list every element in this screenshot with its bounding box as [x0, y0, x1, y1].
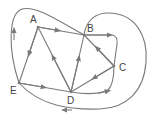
edge-a-e	[19, 27, 38, 83]
node-e-point	[18, 82, 21, 85]
node-label-e: E	[10, 85, 17, 96]
node-a-point	[37, 26, 40, 29]
node-label-d: D	[67, 95, 74, 106]
edge-d-b	[71, 35, 84, 92]
node-c-point	[113, 65, 116, 68]
directed-graph: A B C D E	[0, 0, 157, 119]
edge-c-d	[71, 66, 114, 92]
node-label-a: A	[30, 14, 37, 25]
node-label-c: C	[119, 62, 126, 73]
node-label-b: B	[87, 23, 94, 34]
edge-c-b	[84, 35, 114, 66]
edge-d-a	[38, 27, 71, 92]
node-d-point	[70, 91, 73, 94]
node-b-point	[83, 34, 86, 37]
